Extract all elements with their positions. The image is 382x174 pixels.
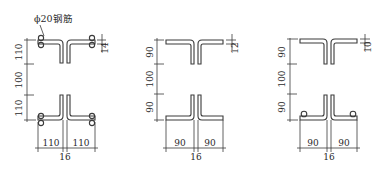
dim-gap: 100 bbox=[14, 71, 24, 88]
dim-left-width: 90 bbox=[307, 138, 319, 148]
rebar-circle bbox=[38, 42, 43, 47]
dim-right-width: 110 bbox=[72, 138, 89, 148]
dim-flange-thickness: 14 bbox=[100, 42, 110, 54]
dim-top-height: 90 bbox=[277, 46, 287, 58]
top-left-angle bbox=[38, 40, 63, 63]
panel-c: 90 100 90 10 90 90 16 bbox=[277, 34, 373, 162]
top-right-angle bbox=[198, 40, 223, 64]
dim-right-width: 90 bbox=[204, 138, 216, 148]
dim-web-gap: 16 bbox=[323, 152, 335, 162]
dim-top-height: 110 bbox=[14, 43, 24, 60]
dim-web-gap: 16 bbox=[59, 152, 71, 162]
top-right-angle bbox=[67, 40, 95, 63]
panel-a: ϕ20钢筋 bbox=[14, 13, 110, 162]
dim-flange-thickness: 12 bbox=[230, 42, 240, 53]
top-right-angle bbox=[331, 39, 357, 64]
dim-left-width: 110 bbox=[42, 138, 59, 148]
dim-bottom-height: 110 bbox=[14, 99, 24, 116]
top-left-angle bbox=[166, 40, 194, 64]
panel-b: 90 100 90 12 90 90 16 bbox=[145, 34, 240, 162]
bottom-right-angle bbox=[67, 95, 95, 120]
dim-flange-thickness: 10 bbox=[363, 41, 373, 53]
dim-bottom-height: 90 bbox=[277, 101, 287, 113]
rebar-circle bbox=[89, 120, 94, 125]
dim-left-width: 90 bbox=[174, 138, 186, 148]
specimen-diagram: ϕ20钢筋 bbox=[0, 0, 382, 174]
rebar-circle bbox=[89, 42, 94, 47]
dim-right-width: 90 bbox=[338, 138, 350, 148]
bottom-left-angle bbox=[38, 95, 63, 120]
dim-bottom-height: 90 bbox=[145, 101, 155, 113]
dim-top-height: 90 bbox=[145, 46, 155, 58]
rebar-callout: ϕ20钢筋 bbox=[34, 13, 73, 24]
dim-gap: 100 bbox=[145, 70, 155, 87]
rebar-circle bbox=[38, 120, 43, 125]
top-left-angle bbox=[300, 39, 327, 64]
dim-gap: 100 bbox=[277, 70, 287, 87]
bottom-right-angle bbox=[198, 95, 223, 120]
bottom-left-angle bbox=[166, 95, 194, 120]
dim-web-gap: 16 bbox=[190, 152, 202, 162]
